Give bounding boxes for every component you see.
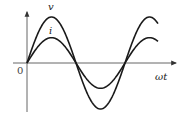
current-label: i — [49, 26, 52, 36]
x-axis-label: ωt — [155, 72, 167, 82]
origin-label: 0 — [17, 66, 23, 76]
waveform-diagram — [0, 0, 182, 118]
voltage-label: v — [48, 2, 54, 12]
